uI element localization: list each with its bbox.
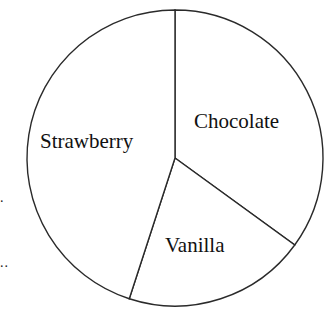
margin-mark-2: ..	[0, 255, 9, 271]
pie-chart: Chocolate Vanilla Strawberry	[0, 0, 329, 327]
margin-mark-1: .	[0, 190, 5, 206]
pie-slices	[27, 10, 323, 306]
slice-label-chocolate: Chocolate	[194, 109, 279, 133]
slice-label-strawberry: Strawberry	[40, 129, 134, 153]
slice-label-vanilla: Vanilla	[165, 233, 225, 257]
